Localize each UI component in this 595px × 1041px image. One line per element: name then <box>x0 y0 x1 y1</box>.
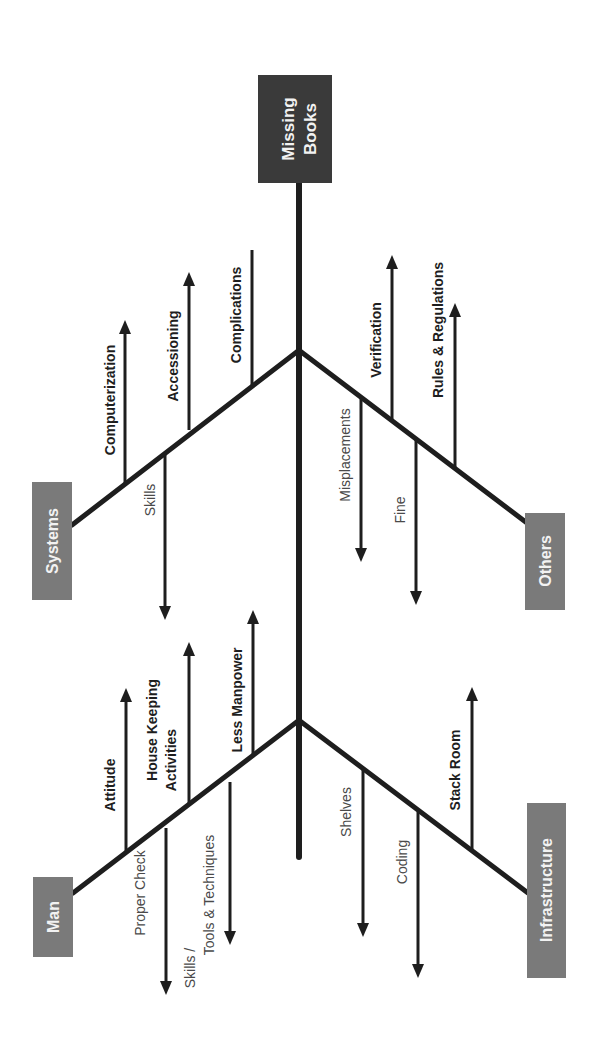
arrow-up-icon <box>386 255 398 269</box>
cause-label-misplacements: Misplacements <box>337 408 353 501</box>
cause-label-skills: Skills <box>142 484 158 517</box>
cause-label-fine: Fine <box>392 496 408 523</box>
cause-label-stack-room: Stack Room <box>447 730 463 811</box>
cause-label-house-keeping-line2: Activities <box>163 729 179 791</box>
cause-label-house-keeping-line1: House Keeping <box>144 679 160 781</box>
cause-label-skills-tools-line1: Skills / <box>182 948 198 989</box>
cause-label-attitude: Attitude <box>102 758 118 811</box>
arrow-up-icon <box>120 688 132 702</box>
category-box-infrastructure: Infrastructure <box>527 803 566 978</box>
cause-label-accessioning: Accessioning <box>165 310 181 401</box>
arrow-down-icon <box>160 981 172 995</box>
arrow-down-icon <box>412 964 424 978</box>
category-label-infrastructure: Infrastructure <box>538 838 555 942</box>
arrow-up-icon <box>466 687 478 701</box>
effect-label-line2: Books <box>301 103 320 155</box>
arrow-up-icon <box>183 272 195 286</box>
arrow-down-icon <box>224 931 236 945</box>
category-box-man: Man <box>33 877 73 957</box>
arrow-up-icon <box>183 642 195 656</box>
arrow-up-icon <box>119 320 131 334</box>
cause-label-verification: Verification <box>368 302 384 377</box>
cause-label-computerization: Computerization <box>102 345 118 455</box>
cause-label-skills-tools-line2: Tools & Techniques <box>201 835 217 955</box>
effect-label-line1: Missing <box>279 97 298 160</box>
category-box-others: Others <box>525 513 565 610</box>
arrow-down-icon <box>159 606 171 620</box>
bone-infrastructure <box>300 721 528 893</box>
cause-label-complications: Complications <box>228 267 244 364</box>
cause-label-less-manpower: Less Manpower <box>229 647 245 753</box>
arrow-up-icon <box>449 303 461 317</box>
category-label-man: Man <box>45 901 62 933</box>
category-box-systems: Systems <box>32 482 72 600</box>
category-label-systems: Systems <box>44 508 61 574</box>
arrow-down-icon <box>355 548 367 562</box>
effect-box-missing-books: Missing Books <box>258 75 332 183</box>
cause-label-shelves: Shelves <box>338 787 354 837</box>
cause-label-coding: Coding <box>394 840 410 884</box>
fishbone-diagram: Missing Books Systems Computerization Ac… <box>0 0 595 1041</box>
arrow-down-icon <box>410 591 422 605</box>
arrow-down-icon <box>357 923 369 937</box>
category-label-others: Others <box>537 535 554 587</box>
cause-label-rules-regulations: Rules & Regulations <box>430 262 446 398</box>
bone-others <box>300 351 527 523</box>
arrow-up-icon <box>247 610 259 624</box>
cause-label-proper-check: Proper Check <box>132 849 148 936</box>
